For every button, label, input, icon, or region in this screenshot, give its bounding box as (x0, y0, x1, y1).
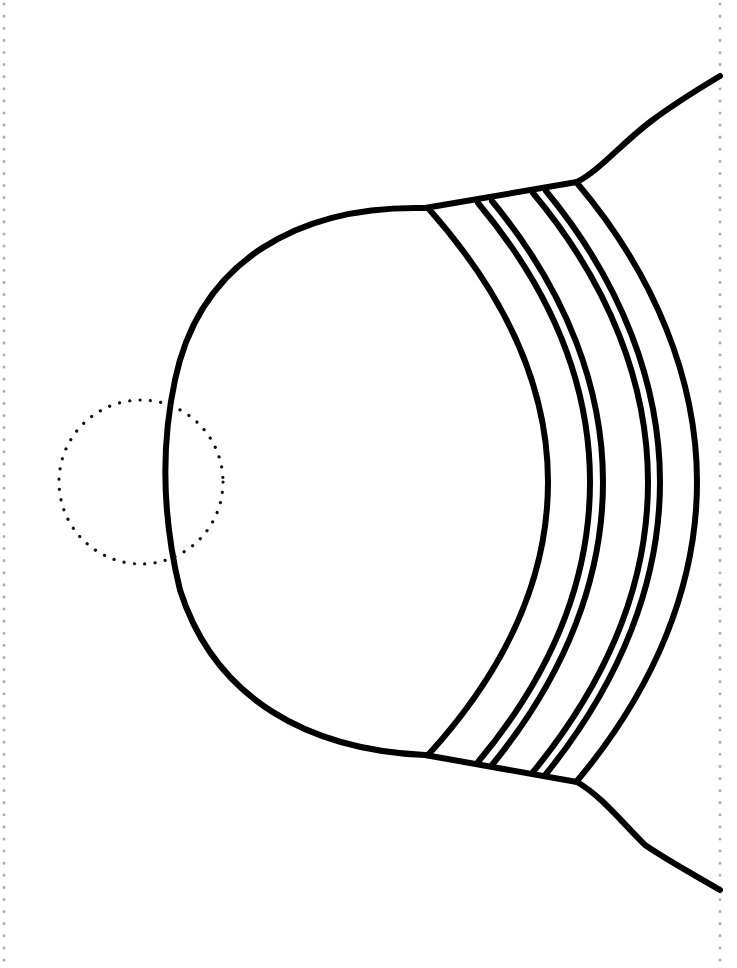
line-drawing (0, 0, 737, 968)
bottom-neck-curve (577, 782, 720, 890)
top-neck-curve (577, 76, 720, 182)
dome-outline (165, 208, 425, 755)
band-arc-1 (428, 208, 548, 755)
dotted-guide-circle (59, 400, 223, 564)
band-arc-2a (478, 203, 590, 762)
coloring-page (0, 0, 737, 968)
band-arc-4 (577, 183, 697, 781)
